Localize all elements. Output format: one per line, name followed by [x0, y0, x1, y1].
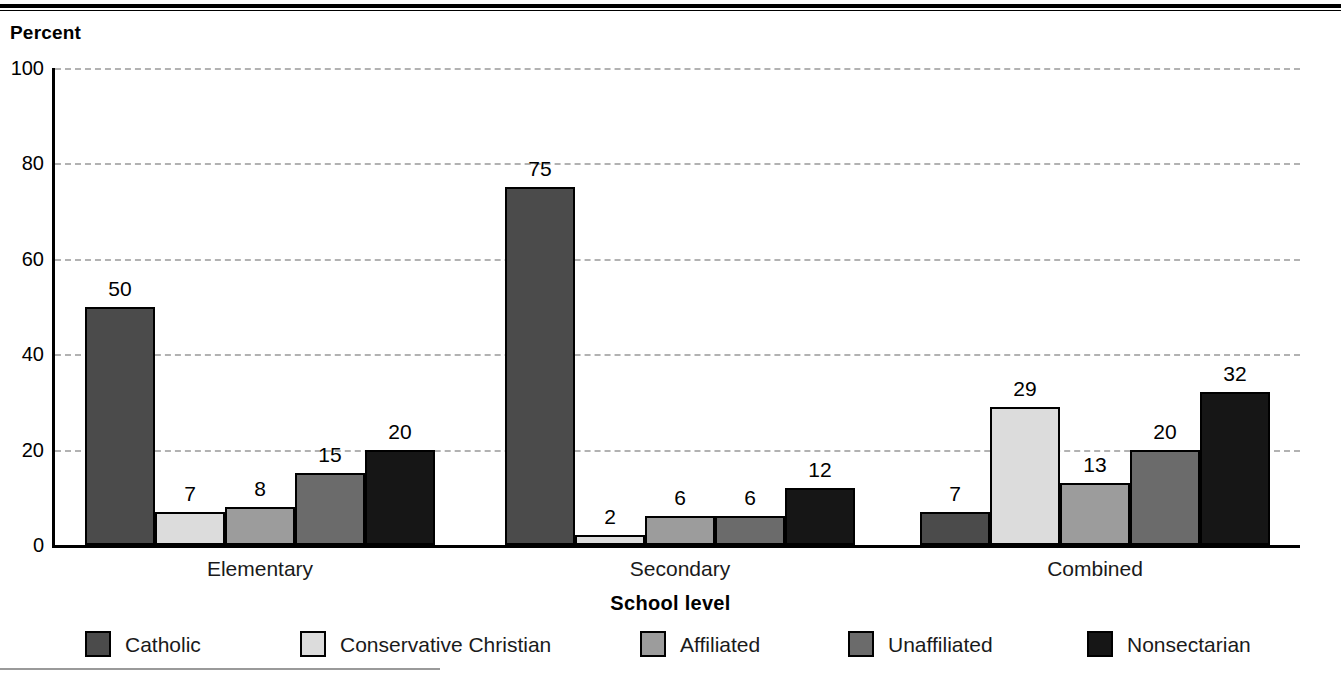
legend-item[interactable]: Conservative Christian — [300, 627, 551, 661]
x-category-label: Combined — [920, 558, 1270, 579]
bar — [715, 516, 785, 545]
bar-value-label: 13 — [1060, 454, 1130, 475]
y-tick-label: 60 — [2, 249, 44, 269]
gridline — [55, 68, 1300, 70]
bar-value-label: 50 — [85, 278, 155, 299]
legend-swatch-icon — [1087, 631, 1113, 657]
chart-page: Percent 020406080100 5078152075266127291… — [0, 0, 1341, 674]
legend-item[interactable]: Unaffiliated — [848, 627, 993, 661]
bar-value-label: 15 — [295, 444, 365, 465]
bar-value-label: 20 — [365, 421, 435, 442]
bar — [505, 187, 575, 545]
bar-value-label: 2 — [575, 506, 645, 527]
legend-item[interactable]: Nonsectarian — [1087, 627, 1251, 661]
gridline — [55, 354, 1300, 356]
bar — [575, 535, 645, 545]
legend-label: Catholic — [125, 634, 201, 655]
bar — [785, 488, 855, 545]
bar-value-label: 6 — [715, 487, 785, 508]
top-divider-thin — [0, 10, 1341, 11]
bar-value-label: 29 — [990, 378, 1060, 399]
bar — [365, 450, 435, 545]
bar — [920, 512, 990, 545]
x-axis-title: School level — [0, 592, 1341, 615]
y-tick-labels: 020406080100 — [0, 68, 44, 545]
legend-swatch-icon — [640, 631, 666, 657]
bar — [225, 507, 295, 545]
bar-value-label: 12 — [785, 459, 855, 480]
bar — [1200, 392, 1270, 545]
legend-item[interactable]: Affiliated — [640, 627, 760, 661]
bar-value-label: 75 — [505, 158, 575, 179]
legend: CatholicConservative ChristianAffiliated… — [0, 627, 1341, 661]
legend-swatch-icon — [848, 631, 874, 657]
top-divider-thick — [0, 4, 1341, 8]
y-tick-label: 80 — [2, 153, 44, 173]
bar — [645, 516, 715, 545]
legend-item[interactable]: Catholic — [85, 627, 201, 661]
bar — [1060, 483, 1130, 545]
gridline — [55, 259, 1300, 261]
gridline — [55, 163, 1300, 165]
y-tick-label: 20 — [2, 440, 44, 460]
bar-value-label: 6 — [645, 487, 715, 508]
bar — [85, 307, 155, 546]
x-category-label: Secondary — [505, 558, 855, 579]
bar-value-label: 7 — [155, 483, 225, 504]
legend-label: Affiliated — [680, 634, 760, 655]
bar — [990, 407, 1060, 545]
bar-value-label: 7 — [920, 483, 990, 504]
x-category-label: Elementary — [85, 558, 435, 579]
legend-swatch-icon — [85, 631, 111, 657]
y-tick-label: 100 — [2, 58, 44, 78]
y-axis-title: Percent — [10, 22, 81, 44]
bar-value-label: 32 — [1200, 363, 1270, 384]
plot-area: 507815207526612729132032 — [52, 68, 1300, 545]
bar — [295, 473, 365, 545]
y-tick-label: 0 — [2, 535, 44, 555]
bar-value-label: 8 — [225, 478, 295, 499]
legend-label: Nonsectarian — [1127, 634, 1251, 655]
legend-label: Conservative Christian — [340, 634, 551, 655]
bottom-divider — [0, 668, 440, 670]
y-tick-label: 40 — [2, 344, 44, 364]
x-axis-line — [52, 545, 1300, 548]
legend-swatch-icon — [300, 631, 326, 657]
bar-value-label: 20 — [1130, 421, 1200, 442]
y-axis-line — [52, 68, 55, 545]
bar — [155, 512, 225, 545]
bar — [1130, 450, 1200, 545]
legend-label: Unaffiliated — [888, 634, 993, 655]
gridline — [55, 450, 1300, 452]
